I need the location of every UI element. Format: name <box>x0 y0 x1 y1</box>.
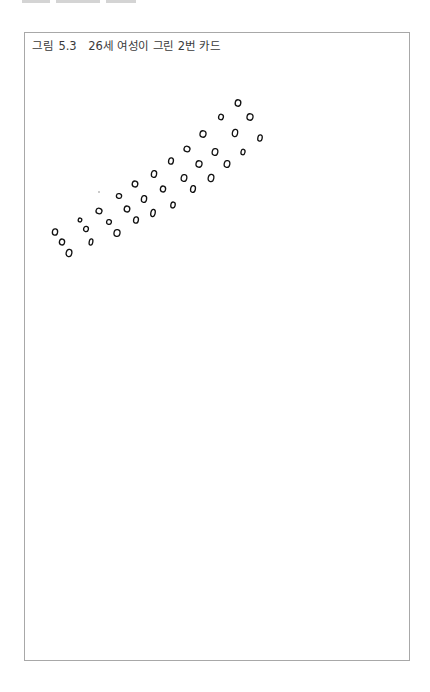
drawn-circle <box>52 228 58 235</box>
drawn-circle <box>168 157 174 164</box>
drawn-circle <box>232 129 239 137</box>
drawn-circle <box>257 134 263 141</box>
drawn-circle <box>132 180 139 187</box>
drawn-circle <box>160 186 166 193</box>
drawn-circle <box>141 195 148 203</box>
drawn-circle <box>195 160 202 168</box>
drawn-circle <box>95 208 102 215</box>
drawn-circle <box>240 149 245 155</box>
drawn-circle <box>89 238 94 245</box>
drawn-circle <box>190 185 196 193</box>
drawn-circle <box>59 239 65 246</box>
drawn-circle <box>246 113 253 121</box>
drawn-circle <box>151 170 158 178</box>
hand-drawn-circles-illustration <box>0 0 430 692</box>
drawn-circle <box>78 218 82 223</box>
drawn-circle <box>124 205 131 212</box>
drawn-circle <box>150 209 156 217</box>
drawn-circle <box>181 174 188 182</box>
drawn-circle <box>218 114 224 120</box>
drawn-circle <box>116 193 122 199</box>
drawn-circle <box>113 229 120 237</box>
drawn-circle <box>183 146 190 153</box>
drawn-circle <box>212 148 219 156</box>
drawn-circle <box>170 202 176 209</box>
drawn-circle <box>208 174 215 182</box>
drawn-circle <box>224 160 231 168</box>
drawn-dot <box>98 191 100 193</box>
drawn-circle <box>83 226 89 232</box>
drawn-circle <box>199 130 206 138</box>
drawn-circle <box>133 216 139 223</box>
drawn-circle <box>106 219 112 225</box>
drawn-circle <box>66 249 73 257</box>
drawn-circle <box>235 99 242 106</box>
